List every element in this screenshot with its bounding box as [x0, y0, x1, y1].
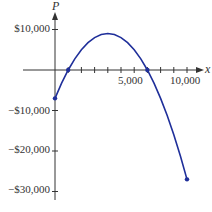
y-tick-label-neg30000: −$30,000 [0, 184, 50, 195]
data-point [145, 68, 149, 72]
y-axis-arrow-icon [52, 12, 58, 20]
x-axis-label: x [205, 63, 210, 75]
y-axis-label: P [52, 0, 59, 12]
x-tick-label-10000: 10,000 [170, 75, 200, 86]
y-tick-label-10000: $10,000 [0, 23, 50, 34]
data-point [53, 96, 57, 100]
data-point [185, 177, 189, 181]
data-point [66, 68, 70, 72]
profit-curve [55, 34, 187, 180]
x-axis-arrow-icon [196, 67, 204, 73]
y-tick-label-neg10000: −$10,000 [0, 105, 50, 116]
y-tick-label-neg20000: −$20,000 [0, 144, 50, 155]
x-tick-label-5000: 5,000 [118, 75, 143, 86]
